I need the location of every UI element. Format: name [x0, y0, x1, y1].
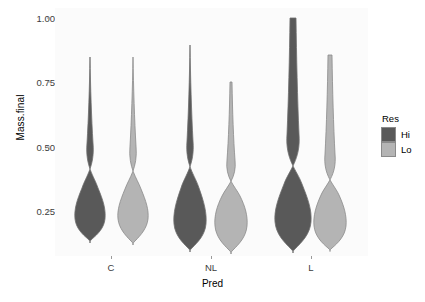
legend-key-lo [381, 142, 396, 157]
y-tick-mark-4 [47, 211, 50, 212]
legend-label-lo: Lo [401, 144, 412, 155]
violin-svg [55, 8, 368, 256]
x-tick-label-NL: NL [186, 262, 236, 273]
x-tick-label-L: L [286, 262, 336, 273]
legend-key-hi [381, 127, 396, 142]
x-tick-mark-NL [211, 256, 212, 259]
y-axis: 1.00 0.75 0.50 0.25 [0, 0, 55, 302]
x-axis-title: Pred [55, 278, 370, 289]
chart-root: 1.00 0.75 0.50 0.25 Mass.final [0, 0, 425, 302]
y-axis-title: Mass.final [15, 78, 26, 158]
legend-item-hi[interactable]: Hi [381, 127, 425, 142]
x-tick-label-C: C [86, 262, 136, 273]
legend-item-lo[interactable]: Lo [381, 142, 425, 157]
legend-label-hi: Hi [401, 129, 410, 140]
y-tick-mark-3 [47, 147, 50, 148]
x-tick-mark-C [111, 256, 112, 259]
y-tick-mark-2 [47, 82, 50, 83]
x-tick-mark-L [311, 256, 312, 259]
legend-title: Res [382, 113, 425, 124]
plot-panel [55, 8, 368, 256]
legend: Res Hi Lo [381, 113, 425, 157]
y-tick-mark-1 [47, 18, 50, 19]
